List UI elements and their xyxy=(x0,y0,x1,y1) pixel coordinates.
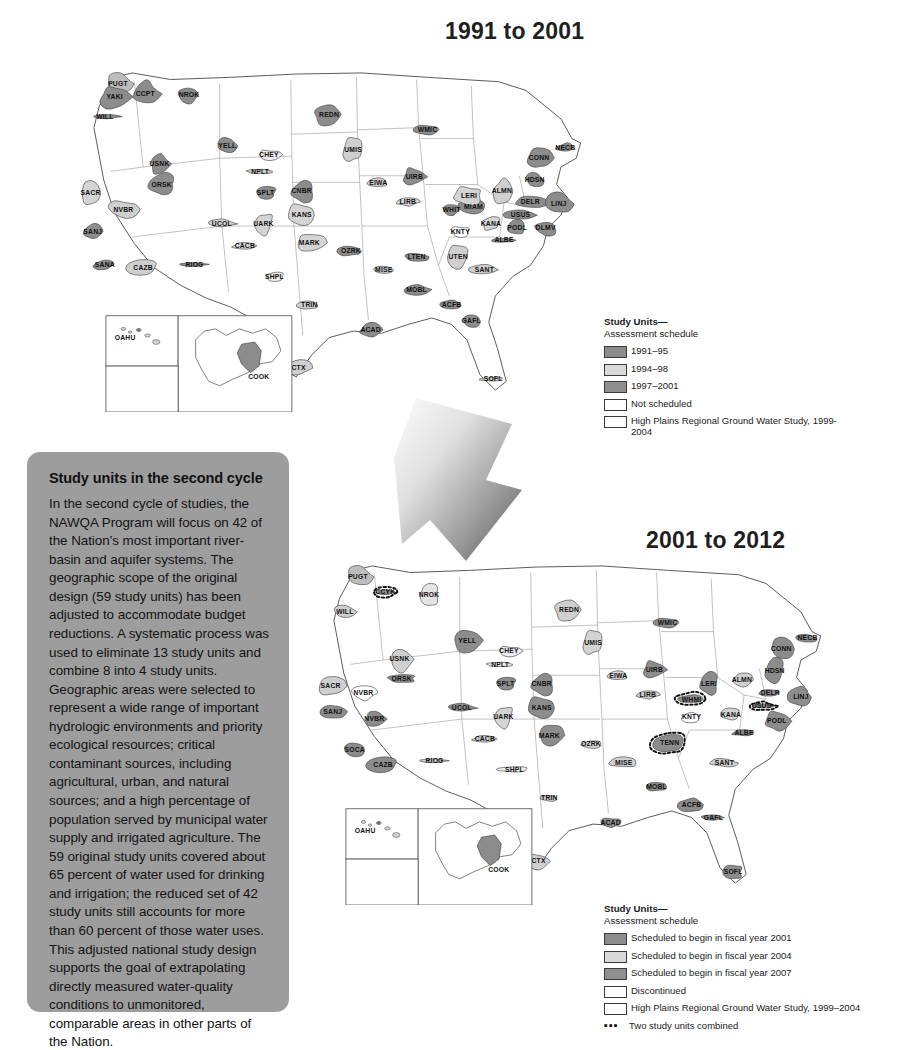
study-unit-label-uirb: UIRB xyxy=(406,173,423,180)
map-1991-2001[interactable]: PUGTYAKICCPTNROKWILLUSNKORSKYELLSACRNVBR… xyxy=(60,62,620,412)
legend-swatch xyxy=(604,986,627,998)
legend-title: Study Units— xyxy=(604,903,904,915)
legend-swatch xyxy=(604,364,627,376)
study-unit-label-nrok: NROK xyxy=(179,91,200,98)
legend-entry[interactable]: High Plains Regional Ground Water Study,… xyxy=(604,415,854,437)
study-unit-label-kana: KANA xyxy=(481,220,501,227)
study-unit-label-mise: MISE xyxy=(375,266,393,273)
study-unit-label-whit: WHIT xyxy=(442,206,461,213)
legend-swatch xyxy=(604,1003,627,1015)
panel-heading: Study units in the second cycle xyxy=(49,470,269,486)
map-title-bottom: 2001 to 2012 xyxy=(646,527,785,554)
study-unit-label-cnbr: CNBR xyxy=(292,187,312,194)
study-unit-label-will: WILL xyxy=(96,113,113,120)
study-unit-label-kans: KANS xyxy=(532,704,552,711)
legend-entry[interactable]: Not scheduled xyxy=(604,398,854,411)
legend-swatch xyxy=(604,346,627,358)
study-unit-label-sofl: SOFL xyxy=(724,868,743,875)
legend-entry[interactable]: Scheduled to begin in fiscal year 2004 xyxy=(604,950,904,963)
legend-title: Study Units— xyxy=(604,316,854,328)
study-unit-label-lten: LTEN xyxy=(408,253,426,260)
legend-swatch xyxy=(604,399,627,411)
inset-label-cook: COOK xyxy=(248,373,269,380)
study-unit-label-gafl: GAFL xyxy=(462,317,481,324)
study-unit-label-necb: NECB xyxy=(797,634,817,641)
study-unit-label-redn: REDN xyxy=(559,606,579,613)
combined-units-dash-icon: ▪▪▪ xyxy=(604,1020,625,1031)
study-unit-label-cacb: CACB xyxy=(235,242,255,249)
study-unit-label-yell: YELL xyxy=(458,637,476,644)
study-unit-label-usnk: USNK xyxy=(150,160,170,167)
legend-label: Scheduled to begin in fiscal year 2001 xyxy=(631,932,792,943)
study-unit-label-linj: LINJ xyxy=(551,200,567,207)
legend-entry[interactable]: ▪▪▪Two study units combined xyxy=(604,1020,904,1031)
study-unit-label-mobl: MOBL xyxy=(646,783,667,790)
study-unit-label-dlmv: DLMV xyxy=(536,224,556,231)
legend-label: Two study units combined xyxy=(629,1020,738,1031)
study-unit-label-orsk: ORSK xyxy=(392,675,412,682)
map-2001-2012[interactable]: PUGTCCYKNROKWILLUSNKORSKYELLSACRNVBRSANJ… xyxy=(300,555,860,905)
legend-entry[interactable]: 1997–2001 xyxy=(604,380,854,393)
study-unit-label-eiwa: EIWA xyxy=(369,179,387,186)
legend-swatch xyxy=(604,416,627,428)
study-unit-label-acfb: ACFB xyxy=(682,801,702,808)
study-unit-label-umis: UMIS xyxy=(584,639,602,646)
panel-body: In the second cycle of studies, the NAWQ… xyxy=(49,495,269,1050)
legend-subtitle: Assessment schedule xyxy=(604,328,854,340)
map-title-top: 1991 to 2001 xyxy=(445,18,584,45)
study-unit-label-nvbr: NVBR xyxy=(113,206,133,213)
study-unit-label-albe: ALBE xyxy=(494,236,514,243)
study-unit-label-podl: PODL xyxy=(767,717,787,724)
study-unit-label-nvbr: NVBR xyxy=(353,689,373,696)
study-unit-label-ucol: UCOL xyxy=(452,704,472,711)
study-unit-label-sacr: SACR xyxy=(81,189,101,196)
legend-label: Not scheduled xyxy=(631,398,692,409)
study-unit-label-cnbr: CNBR xyxy=(532,680,552,687)
study-unit-label-almn: ALMN xyxy=(492,187,512,194)
study-unit-label-yell: YELL xyxy=(218,142,236,149)
legend-subtitle: Assessment schedule xyxy=(604,915,904,927)
study-unit-label-sanj: SANJ xyxy=(83,228,102,235)
study-unit-label-ucol: UCOL xyxy=(212,220,232,227)
legend-entry[interactable]: Scheduled to begin in fiscal year 2007 xyxy=(604,967,904,980)
legend-label: Discontinued xyxy=(631,985,686,996)
legend-entry[interactable]: High Plains Regional Ground Water Study,… xyxy=(604,1002,904,1015)
legend-entry[interactable]: 1994–98 xyxy=(604,363,854,376)
study-unit-label-ozrk: OZRK xyxy=(581,740,601,747)
study-unit-label-mark: MARK xyxy=(299,239,320,246)
study-unit-label-shpl: SHPL xyxy=(265,273,284,280)
legend-label: High Plains Regional Ground Water Study,… xyxy=(631,415,854,437)
study-unit-label-usus: USUS xyxy=(511,211,531,218)
study-unit-label-hdsn: HDSN xyxy=(525,176,545,183)
study-unit-label-delr: DELR xyxy=(521,198,540,205)
legend-entry[interactable]: Scheduled to begin in fiscal year 2001 xyxy=(604,932,904,945)
study-unit-label-orsk: ORSK xyxy=(152,181,172,188)
study-unit-label-uark: UARK xyxy=(253,220,273,227)
study-unit-label-linj: LINJ xyxy=(793,693,809,700)
study-unit-label-wmic: WMIC xyxy=(418,126,438,133)
study-unit-label-riog: RIOG xyxy=(425,757,443,764)
legend-label: High Plains Regional Ground Water Study,… xyxy=(631,1002,860,1013)
study-unit-label-nplt: NPLT xyxy=(251,168,270,175)
study-unit-label-pugt: PUGT xyxy=(108,80,128,87)
study-unit-label-uirb: UIRB xyxy=(646,666,663,673)
study-unit-label-albe: ALBE xyxy=(734,729,754,736)
legend-entry[interactable]: Discontinued xyxy=(604,985,904,998)
study-unit-label-wmic: WMIC xyxy=(658,619,678,626)
study-unit-label-sacr: SACR xyxy=(321,682,341,689)
inset-label-cook: COOK xyxy=(488,866,509,873)
study-unit-label-gafl: GAFL xyxy=(704,814,723,821)
study-unit-label-ccpt: CCPT xyxy=(136,90,156,97)
legend-bottom: Study Units— Assessment schedule Schedul… xyxy=(604,903,904,1035)
study-unit-label-uten: UTEN xyxy=(448,253,467,260)
study-unit-label-kana: KANA xyxy=(721,711,741,718)
legend-label: 1997–2001 xyxy=(631,380,679,391)
study-unit-label-conn: CONN xyxy=(771,645,792,652)
second-cycle-text-panel: Study units in the second cycle In the s… xyxy=(27,452,289,1012)
legend-entry[interactable]: 1991–95 xyxy=(604,345,854,358)
study-unit-label-knty: KNTY xyxy=(682,713,702,720)
legend-label: 1994–98 xyxy=(631,363,668,374)
study-unit-label-mobl: MOBL xyxy=(406,286,427,293)
study-unit-label-umis: UMIS xyxy=(344,146,362,153)
study-unit-label-chey: CHEY xyxy=(259,151,279,158)
